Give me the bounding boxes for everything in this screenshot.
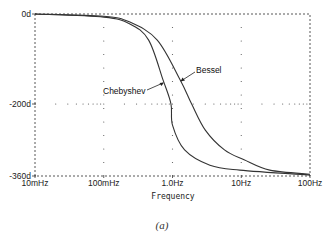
grid-dot	[136, 103, 137, 104]
grid-dot	[205, 103, 206, 104]
grid-dot	[241, 40, 242, 41]
arrowhead-icon	[181, 78, 186, 82]
grid-dot	[172, 108, 173, 109]
grid-dot	[303, 103, 304, 104]
grid-dot	[241, 135, 242, 136]
grid-dot	[172, 67, 173, 68]
grid-dot	[172, 54, 173, 55]
grid-dot	[96, 103, 97, 104]
grid-dot	[103, 54, 104, 55]
grid-dot	[261, 103, 262, 104]
grid-dot	[241, 121, 242, 122]
grid-dot	[220, 103, 221, 104]
grid-dot	[193, 103, 194, 104]
x-tick-label: 100mHz	[88, 178, 120, 188]
grid-dot	[88, 103, 89, 104]
grid-dot	[100, 103, 101, 104]
grid-dot	[93, 103, 94, 104]
y-axis-ticks: 0d-200d-360d	[9, 9, 36, 181]
x-axis-ticks: 10mHz100mHz1.0Hz10Hz100Hz	[22, 175, 323, 188]
phase-chart: 0d-200d-360d 10mHz100mHz1.0Hz10Hz100Hz C…	[0, 0, 324, 240]
grid-dot	[213, 103, 214, 104]
grid-dot	[241, 54, 242, 55]
y-tick-label: 0d	[22, 9, 32, 19]
grid-dot	[172, 81, 173, 82]
grid-dot	[230, 103, 231, 104]
grid-dot	[145, 103, 146, 104]
grid-dot	[289, 103, 290, 104]
grid-dot	[103, 81, 104, 82]
grid-dot	[172, 94, 173, 95]
grid-dot	[241, 27, 242, 28]
grid-dot	[82, 103, 83, 104]
grid-dot	[294, 103, 295, 104]
grid-dot	[103, 40, 104, 41]
annotations: ChebyshevBessel	[103, 65, 222, 96]
grid-dot	[306, 103, 307, 104]
grid-dot	[76, 103, 77, 104]
curve-bessel	[35, 14, 310, 174]
grid-dot	[157, 103, 158, 104]
grid-dot	[103, 121, 104, 122]
grid-dot	[241, 162, 242, 163]
annotation-bessel-label: Bessel	[196, 65, 222, 75]
figure-caption: (a)	[0, 219, 324, 231]
x-tick-label: 10Hz	[231, 178, 251, 188]
grid-dot	[241, 148, 242, 149]
grid-dot	[103, 108, 104, 109]
grid-dot	[103, 135, 104, 136]
grid-dot	[103, 148, 104, 149]
grid-dot	[124, 103, 125, 104]
grid-dot	[225, 103, 226, 104]
grid-dot	[172, 135, 173, 136]
x-tick-label: 10mHz	[22, 178, 49, 188]
grid-dot	[299, 103, 300, 104]
grid-dot	[67, 103, 68, 104]
grid-dot	[103, 27, 104, 28]
grid-dot	[241, 94, 242, 95]
grid-dot	[273, 103, 274, 104]
grid-dot	[172, 103, 173, 104]
grid-dot	[151, 103, 152, 104]
grid-dot	[282, 103, 283, 104]
grid-dot	[241, 81, 242, 82]
grid-dot	[238, 103, 239, 104]
grid-dot	[241, 108, 242, 109]
grid-dot	[234, 103, 235, 104]
annotation-chebyshev-label: Chebyshev	[103, 86, 146, 96]
grid-dot	[169, 103, 170, 104]
grid-dot	[172, 148, 173, 149]
grid-dot	[161, 103, 162, 104]
y-tick-label: -200d	[9, 99, 31, 109]
grid-dot	[103, 103, 104, 104]
x-axis-title: Frequency	[151, 192, 195, 201]
grid-dot	[241, 103, 242, 104]
x-tick-label: 1.0Hz	[161, 178, 183, 188]
x-tick-label: 100Hz	[298, 178, 323, 188]
grid-dot	[172, 162, 173, 163]
grid-dot	[172, 27, 173, 28]
grid-dot	[103, 67, 104, 68]
grid-dot	[103, 162, 104, 163]
grid-dot	[55, 103, 56, 104]
grid-dot	[165, 103, 166, 104]
grid-dots	[34, 27, 307, 163]
grid-dot	[241, 67, 242, 68]
grid-dot	[172, 40, 173, 41]
